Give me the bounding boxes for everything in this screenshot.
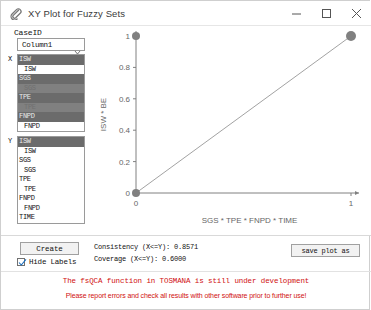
y-tick-label: 0.8 — [119, 63, 131, 72]
x-list-item[interactable]: TPE — [18, 103, 84, 113]
y-axis-title: ISW * BE — [99, 98, 108, 131]
x-list-item[interactable]: ISW — [18, 55, 84, 65]
minimize-button[interactable] — [281, 1, 311, 25]
consistency-value: Consistency (X<=Y): 0.8571 — [94, 243, 198, 251]
x-tick-label: 1 — [349, 199, 354, 208]
x-list-item[interactable]: SGS — [18, 84, 84, 94]
y-list-item[interactable]: ISW — [18, 137, 84, 147]
caseid-label: CaseID — [14, 28, 42, 37]
chevron-down-icon — [74, 42, 81, 49]
y-list-item[interactable]: TPE — [18, 185, 84, 195]
y-tick-label: 0.2 — [119, 158, 131, 167]
y-variable-listbox[interactable]: ISWISWSGSSGSTPETPEFNPDFNPDTIMETIMEBEBE — [17, 136, 85, 224]
x-axis-title: SGS * TPE * FNPD * TIME — [202, 216, 298, 225]
y-list-item[interactable]: FNPD — [18, 204, 84, 214]
warning-text-line1: The fsQCA function in TOSMANA is still u… — [1, 277, 371, 285]
y-tick-label: 0 — [126, 189, 131, 198]
save-plot-button[interactable]: save plot as — [291, 244, 360, 257]
window-controls — [281, 1, 371, 25]
x-list-item[interactable]: SGS — [18, 74, 84, 84]
y-tick-label: 0.6 — [119, 95, 131, 104]
y-list-item[interactable]: FNPD — [18, 194, 84, 204]
window-title: XY Plot for Fuzzy Sets — [28, 8, 125, 19]
y-list-item[interactable]: ISW — [18, 147, 84, 157]
x-tick-label: 0 — [134, 199, 139, 208]
x-list-item[interactable]: TIME — [18, 131, 84, 132]
data-point[interactable] — [132, 189, 140, 197]
data-point[interactable] — [132, 32, 140, 40]
bottom-divider — [1, 235, 371, 236]
x-list-item[interactable]: FNPD — [18, 112, 84, 122]
y-list-item[interactable]: TPE — [18, 175, 84, 185]
hide-labels-checkbox[interactable] — [17, 258, 25, 266]
y-list-item[interactable]: TIME — [18, 213, 84, 223]
warning-divider — [1, 271, 371, 272]
y-list-item[interactable]: SGS — [18, 156, 84, 166]
y-list-item[interactable]: TIME — [18, 223, 84, 225]
caseid-selected-value: Column1 — [22, 41, 52, 49]
coverage-value: Coverage (X<=Y): 0.6000 — [94, 255, 186, 263]
y-axis-marker: Y — [8, 137, 12, 145]
chart-canvas: 00.20.40.60.8101SGS * TPE * FNPD * TIMEI… — [98, 26, 371, 235]
variable-selection-panel: CaseID Column1 X Y ISWISWSGSSGSTPETPEFNP… — [1, 26, 98, 235]
xy-plot-chart: 00.20.40.60.8101SGS * TPE * FNPD * TIMEI… — [98, 26, 371, 235]
title-bar: XY Plot for Fuzzy Sets — [1, 1, 371, 25]
x-axis-marker: X — [8, 55, 12, 63]
x-list-item[interactable]: TPE — [18, 93, 84, 103]
diagonal-reference-line — [136, 36, 351, 193]
paperclip-icon — [9, 7, 22, 20]
x-axis-arrow — [355, 191, 359, 195]
data-point[interactable] — [346, 31, 356, 41]
close-button[interactable] — [341, 1, 371, 25]
x-variable-listbox[interactable]: ISWISWSGSSGSTPETPEFNPDFNPDTIMETIMEBEBE — [17, 54, 85, 132]
y-tick-label: 1 — [126, 32, 131, 41]
create-button[interactable]: Create — [20, 242, 79, 255]
hide-labels-label: Hide Labels — [29, 258, 76, 266]
y-list-item[interactable]: SGS — [18, 166, 84, 176]
caseid-dropdown[interactable]: Column1 — [17, 38, 85, 51]
x-list-item[interactable]: ISW — [18, 65, 84, 75]
y-tick-label: 0.4 — [119, 126, 131, 135]
maximize-button[interactable] — [311, 1, 341, 25]
hide-labels-row[interactable]: Hide Labels — [17, 258, 76, 266]
x-list-item[interactable]: FNPD — [18, 122, 84, 132]
warning-text-line2: Please report errors and check all resul… — [1, 292, 371, 299]
